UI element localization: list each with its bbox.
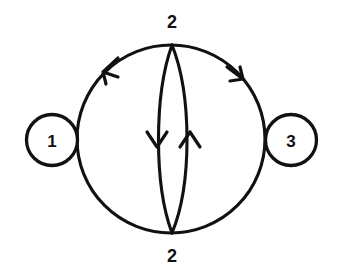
arrowhead-upper-left-ccw (103, 58, 118, 84)
node-2-top-label: 2 (167, 12, 177, 32)
graph-diagram: 1 3 2 2 (0, 0, 343, 278)
arrowhead-lens-right-up (180, 132, 200, 147)
node-2-bottom-label: 2 (167, 246, 177, 266)
graph-canvas: 1 3 2 2 (0, 0, 343, 278)
node-3-label: 3 (286, 132, 295, 151)
node-1-label: 1 (47, 132, 56, 151)
